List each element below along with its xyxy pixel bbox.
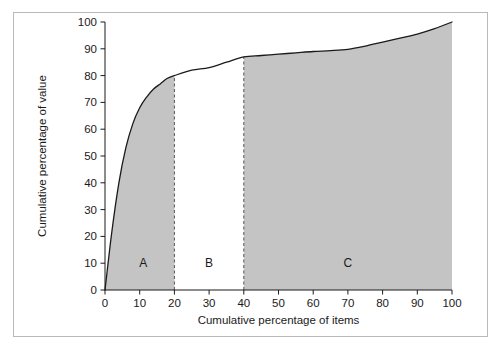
x-tick-label-60: 60	[307, 297, 320, 309]
x-tick-label-10: 10	[133, 297, 146, 309]
y-tick-label-40: 40	[84, 177, 97, 189]
y-tick-label-0: 0	[91, 284, 97, 296]
figure-frame: 0102030405060708090100010203040506070809…	[13, 12, 488, 337]
x-tick-label-30: 30	[203, 297, 216, 309]
y-tick-label-80: 80	[84, 70, 97, 82]
y-tick-label-90: 90	[84, 43, 97, 55]
x-tick-label-20: 20	[168, 297, 181, 309]
x-tick-label-80: 80	[376, 297, 389, 309]
x-tick-label-40: 40	[237, 297, 250, 309]
region-label-c: C	[344, 256, 353, 270]
y-tick-label-10: 10	[84, 257, 97, 269]
y-tick-label-70: 70	[84, 96, 97, 108]
x-tick-label-50: 50	[272, 297, 285, 309]
y-tick-label-100: 100	[78, 16, 97, 28]
x-tick-label-100: 100	[442, 297, 461, 309]
x-tick-label-0: 0	[102, 297, 108, 309]
region-label-a: A	[139, 256, 147, 270]
x-axis-title: Cumulative percentage of items	[198, 314, 360, 326]
x-tick-label-70: 70	[342, 297, 355, 309]
region-label-b: B	[205, 256, 213, 270]
x-tick-label-90: 90	[411, 297, 424, 309]
y-tick-label-60: 60	[84, 123, 97, 135]
y-tick-label-50: 50	[84, 150, 97, 162]
pareto-abc-chart: 0102030405060708090100010203040506070809…	[14, 13, 489, 338]
y-tick-label-20: 20	[84, 230, 97, 242]
y-tick-label-30: 30	[84, 204, 97, 216]
y-axis-title: Cumulative percentage of value	[36, 75, 48, 237]
